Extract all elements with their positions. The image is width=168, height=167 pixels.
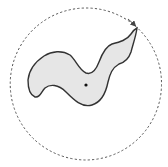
center-point xyxy=(84,83,87,86)
diagram-canvas xyxy=(0,0,168,167)
irregular-region xyxy=(28,28,137,106)
arrow-icon xyxy=(128,19,136,26)
